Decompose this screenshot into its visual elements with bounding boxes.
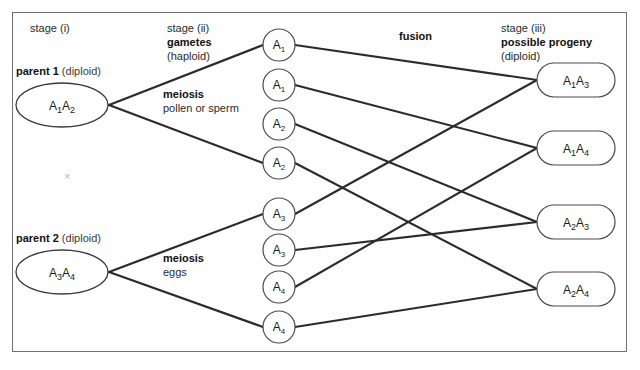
parent-2-name-bold: parent 2 [16,232,59,244]
diagram-border [12,12,627,352]
gametes-subheader: (haploid) [167,50,210,63]
parent-2-name: parent 2 (diploid) [16,232,101,245]
parent-1-meiosis-subcaption: pollen or sperm [163,102,239,115]
stage-iii-header: stage (iii) [501,22,546,35]
progeny-subheader: (diploid) [501,50,540,63]
parent-1-name-qualifier: (diploid) [59,65,101,77]
parent-2-meiosis-subcaption: eggs [163,266,187,279]
parent-1-name: parent 1 (diploid) [16,65,101,78]
cross-symbol: × [64,170,70,182]
progeny-header: possible progeny [501,36,592,49]
parent-2-meiosis-label: meiosis [163,252,204,265]
parent-1-meiosis-label: meiosis [163,88,204,101]
stage-ii-header: stage (ii) [167,22,209,35]
fusion-header: fusion [399,30,432,43]
gametes-header: gametes [167,36,212,49]
figure-canvas: A1A1A2A2A3A3A4A4 A1A2A3A4 A1A3A1A4A2A3A2… [0,0,640,370]
parent-2-name-qualifier: (diploid) [59,232,101,244]
parent-1-name-bold: parent 1 [16,65,59,77]
stage-i-header: stage (i) [30,22,70,35]
